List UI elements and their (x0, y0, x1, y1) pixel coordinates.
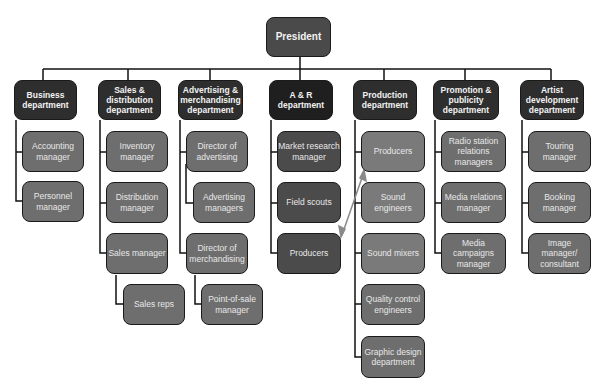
president-box: President (266, 17, 331, 57)
dept-ar: A & R department (269, 80, 333, 120)
role-label: Advertising managers (194, 192, 254, 212)
role-box: Distribution manager (106, 182, 168, 223)
role-box: Accounting manager (22, 131, 84, 172)
dept-label: Business department (15, 90, 76, 110)
dept-label: Production department (354, 90, 416, 110)
role-box: Producers (277, 233, 341, 274)
role-label: Booking manager (529, 192, 590, 212)
role-box: Sales reps (123, 284, 185, 325)
dept-artist: Artist development department (520, 80, 584, 120)
dept-label: Advertising & merchandising department (179, 85, 242, 116)
role-box: Graphic design department (361, 336, 425, 378)
role-box: Producers (361, 131, 425, 172)
role-label: Personnel manager (23, 191, 83, 211)
dept-advertising: Advertising & merchandising department (178, 80, 243, 120)
role-label: Accounting manager (23, 141, 83, 161)
role-label: Sales reps (134, 299, 174, 309)
role-box: Director of merchandising (186, 233, 248, 274)
role-label: Distribution manager (107, 192, 167, 212)
role-box: Media campaigns manager (441, 233, 506, 274)
role-label: Sound engineers (362, 192, 424, 212)
role-label: Field scouts (286, 197, 331, 207)
role-label: Director of merchandising (187, 243, 247, 263)
role-label: Market research manager (278, 141, 340, 161)
dept-label: A & R department (270, 90, 332, 110)
role-box: Radio station relations managers (441, 131, 506, 172)
role-label: Director of advertising (187, 141, 247, 161)
role-box: Field scouts (277, 182, 341, 223)
role-box: Media relations manager (441, 182, 506, 223)
dept-sales: Sales & distribution department (98, 80, 161, 120)
role-box: Market research manager (277, 131, 341, 172)
role-label: Media relations manager (442, 192, 505, 212)
role-label: Producers (374, 146, 413, 156)
role-box: Quality control engineers (361, 284, 425, 325)
role-box: Advertising managers (193, 182, 255, 223)
role-box: Point-of-sale manager (201, 284, 263, 325)
president-label: President (276, 31, 322, 43)
dept-promotion: Promotion & publicity department (433, 80, 499, 120)
role-label: Graphic design department (362, 347, 424, 367)
role-label: Inventory manager (107, 141, 167, 161)
role-box: Booking manager (528, 182, 591, 223)
role-box: Sound engineers (361, 182, 425, 223)
role-box: Sound mixers (361, 233, 425, 274)
role-label: Producers (290, 248, 329, 258)
role-label: Media campaigns manager (442, 238, 505, 269)
role-box: Touring manager (528, 131, 591, 172)
dept-label: Artist development department (521, 85, 583, 116)
role-box: Sales manager (106, 233, 168, 274)
role-label: Image manager/ consultant (529, 238, 590, 269)
role-label: Radio station relations managers (442, 136, 505, 167)
dept-label: Sales & distribution department (99, 85, 160, 116)
dept-label: Promotion & publicity department (434, 85, 498, 116)
role-label: Sales manager (108, 248, 165, 258)
role-box: Image manager/ consultant (528, 233, 591, 274)
role-label: Touring manager (529, 141, 590, 161)
role-box: Inventory manager (106, 131, 168, 172)
dept-business: Business department (14, 80, 77, 120)
role-label: Sound mixers (367, 248, 419, 258)
role-label: Quality control engineers (362, 294, 424, 314)
role-label: Point-of-sale manager (202, 294, 262, 314)
role-box: Personnel manager (22, 181, 84, 222)
dept-production: Production department (353, 80, 417, 120)
role-box: Director of advertising (186, 131, 248, 172)
